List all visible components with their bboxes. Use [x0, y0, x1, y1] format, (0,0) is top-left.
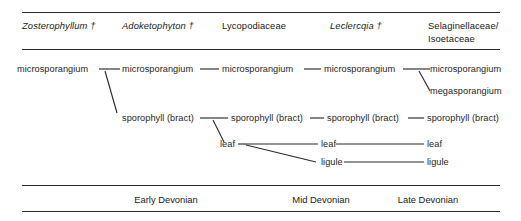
node-col2-microsporangium: microsporangium	[122, 64, 193, 75]
column-header-leclercqia: Leclercqia †	[330, 20, 382, 33]
table-rule-top	[22, 12, 500, 13]
epoch-early-devonian: Early Devonian	[134, 194, 198, 205]
node-col5-microsporangium: microsporangium	[430, 64, 501, 75]
node-col3-sporophyll-bract: sporophyll (bract)	[231, 113, 303, 124]
node-col4-microsporangium: microsporangium	[324, 64, 395, 75]
node-col3-microsporangium: microsporangium	[222, 64, 293, 75]
node-col3-leaf: leaf	[220, 139, 235, 150]
column-header-selaginellaceae-isoetaceae: Selaginellaceae/ Isoetaceae	[428, 20, 498, 45]
table-rule-header	[22, 49, 500, 50]
node-col5-leaf: leaf	[427, 139, 442, 150]
epoch-late-devonian: Late Devonian	[398, 194, 458, 205]
node-col1-microsporangium: microsporangium	[17, 64, 88, 75]
node-col4-leaf: leaf	[321, 139, 336, 150]
column-header-adoketophyton: Adoketophyton †	[122, 20, 194, 33]
node-col5-sporophyll-bract: sporophyll (bract)	[427, 113, 499, 124]
column-header-zosterophyllum: Zosterophyllum †	[22, 20, 96, 33]
table-rule-footer-top	[22, 185, 500, 186]
homology-table-figure: Zosterophyllum † Adoketophyton † Lycopod…	[0, 0, 521, 221]
node-col4-sporophyll-bract: sporophyll (bract)	[327, 113, 399, 124]
node-col2-sporophyll-bract: sporophyll (bract)	[122, 113, 194, 124]
node-col5-megasporangium: megasporangium	[430, 86, 502, 97]
epoch-mid-devonian: Mid Devonian	[292, 194, 349, 205]
column-header-lycopodiaceae: Lycopodiaceae	[222, 20, 286, 33]
table-rule-footer-bottom	[22, 211, 500, 212]
node-col5-ligule: ligule	[427, 157, 449, 168]
node-col4-ligule: ligule	[321, 157, 343, 168]
